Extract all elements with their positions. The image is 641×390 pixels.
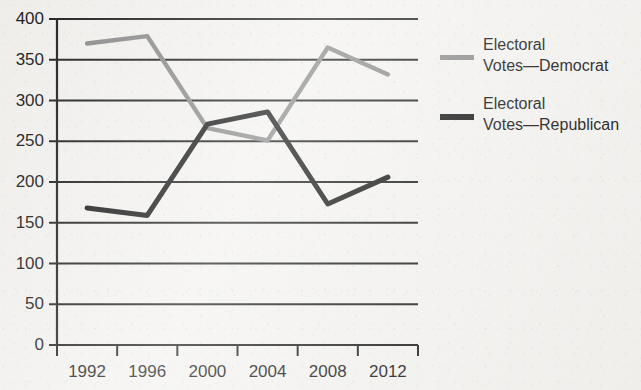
series-line-republican bbox=[87, 112, 388, 216]
x-tick-label: 2004 bbox=[238, 363, 298, 380]
x-tick-label: 1992 bbox=[57, 363, 117, 380]
y-tick-label: 300 bbox=[0, 92, 44, 109]
electoral-votes-line-chart: 050100150200250300350400 199219962000200… bbox=[0, 0, 641, 390]
y-tick-label: 400 bbox=[0, 10, 44, 27]
legend-swatch-republican bbox=[440, 114, 474, 120]
legend-item-republican: Electoral Votes—Republican bbox=[440, 93, 640, 135]
y-axis-ticks bbox=[49, 19, 57, 345]
x-tick-label: 1996 bbox=[117, 363, 177, 380]
y-tick-label: 350 bbox=[0, 51, 44, 68]
y-tick-label: 100 bbox=[0, 255, 44, 272]
y-tick-label: 250 bbox=[0, 132, 44, 149]
legend-item-democrat: Electoral Votes—Democrat bbox=[440, 34, 640, 76]
y-tick-label: 50 bbox=[0, 295, 44, 312]
y-tick-label: 0 bbox=[0, 336, 44, 353]
legend-label-republican: Electoral Votes—Republican bbox=[483, 93, 619, 135]
y-tick-label: 200 bbox=[0, 173, 44, 190]
chart-legend: Electoral Votes—Democrat Electoral Votes… bbox=[440, 34, 640, 152]
x-tick-label: 2000 bbox=[177, 363, 237, 380]
legend-label-democrat: Electoral Votes—Democrat bbox=[483, 34, 608, 76]
series-line-democrat bbox=[87, 36, 388, 140]
y-tick-label: 150 bbox=[0, 214, 44, 231]
legend-swatch-democrat bbox=[440, 55, 474, 60]
x-axis-ticks bbox=[57, 345, 418, 356]
x-tick-label: 2008 bbox=[298, 363, 358, 380]
x-tick-label: 2012 bbox=[358, 363, 418, 380]
